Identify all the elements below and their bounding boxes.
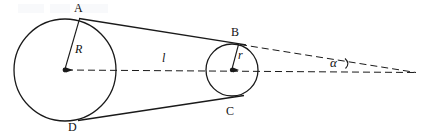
figure-canvas bbox=[0, 0, 422, 140]
label-angle-alpha: α bbox=[330, 56, 337, 69]
angle-arc-icon bbox=[345, 59, 348, 69]
label-radius-small: r bbox=[238, 49, 243, 61]
upper-tangent-line bbox=[79, 19, 246, 45]
geometry-figure: A B C D R r l α bbox=[0, 0, 422, 140]
large-center-arrow-icon bbox=[66, 67, 73, 72]
center-axis-dashed-line bbox=[66, 70, 416, 73]
label-radius-large: R bbox=[75, 43, 82, 55]
lower-tangent-line bbox=[78, 96, 244, 121]
label-point-c: C bbox=[226, 105, 234, 117]
label-point-b: B bbox=[231, 26, 239, 38]
label-point-d: D bbox=[68, 121, 77, 133]
upper-dashed-converging-line bbox=[240, 45, 416, 73]
label-distance: l bbox=[162, 52, 165, 64]
label-point-a: A bbox=[74, 2, 83, 14]
